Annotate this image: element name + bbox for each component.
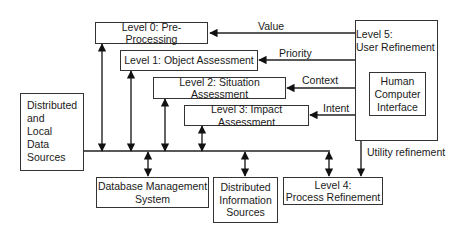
dis-line3: Sources (226, 206, 265, 219)
level0-box: Level 0: Pre-Processing (95, 22, 208, 44)
edge-label-intent: Intent (323, 102, 349, 114)
level1-label: Level 1: Object Assessment (124, 54, 254, 67)
level5-line2: User Refinement (356, 41, 435, 54)
level4-line1: Level 4: (315, 179, 352, 192)
dbms-box: Database Management System (96, 177, 209, 208)
edge-label-context: Context (302, 74, 338, 86)
data-sources-box: Distributed and Local Data Sources (20, 93, 84, 171)
hci-line2: Computer (374, 88, 420, 101)
level3-box: Level 3: Impact Assessment (184, 105, 309, 126)
hci-line3: Interface (377, 101, 418, 114)
edge-label-utility: Utility refinement (367, 146, 445, 158)
level2-box: Level 2: Situation Assessment (153, 77, 286, 99)
hci-box: Human Computer Interface (369, 72, 426, 116)
level5-line1: Level 5: (356, 28, 393, 41)
level3-label: Level 3: Impact Assessment (185, 103, 308, 128)
dis-line1: Distributed (220, 181, 270, 194)
sources-line1: Distributed (27, 99, 77, 112)
dbms-line1: Database Management (98, 180, 207, 193)
sources-line4: Data (27, 138, 49, 151)
dbms-line2: System (135, 193, 170, 206)
sources-line2: and (27, 112, 45, 125)
hci-line1: Human (381, 75, 415, 88)
level4-box: Level 4: Process Refinement (283, 177, 383, 205)
level2-label: Level 2: Situation Assessment (154, 76, 285, 101)
sources-line3: Local (27, 125, 52, 138)
level0-label: Level 0: Pre-Processing (96, 21, 207, 46)
edge-label-value: Value (258, 20, 284, 32)
dist-info-sources-box: Distributed Information Sources (213, 177, 278, 223)
sources-line5: Sources (27, 151, 66, 164)
level1-box: Level 1: Object Assessment (120, 50, 258, 71)
edge-label-priority: Priority (279, 47, 312, 59)
level4-line2: Process Refinement (286, 191, 381, 204)
dis-line2: Information (219, 194, 272, 207)
